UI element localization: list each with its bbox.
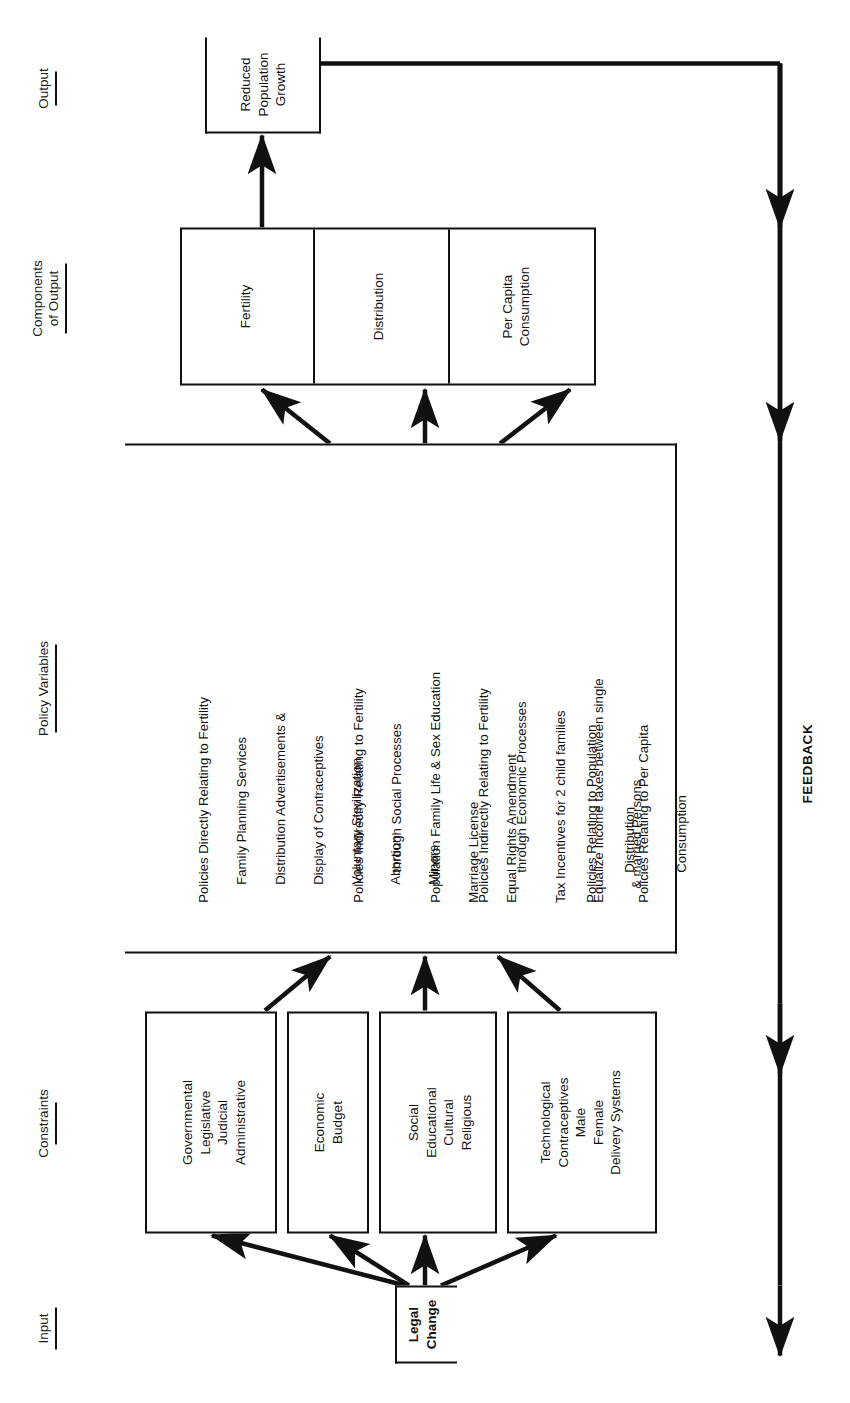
node-reduced-population-growth: Reduced Population Growth: [205, 37, 321, 133]
output-line: Reduced: [238, 57, 253, 111]
policy-line: Policies Relating to Population: [584, 724, 599, 902]
policy-line: Population Family Life & Sex Education: [428, 671, 443, 902]
constraint-line: Administrative: [233, 1080, 248, 1165]
section-label-input-text: Input: [36, 1313, 51, 1343]
constraint-line: Delivery Systems: [608, 1070, 623, 1174]
component-line: Fertility: [238, 284, 253, 328]
constraint-line: Educational: [424, 1087, 439, 1158]
component-per-capita-label: Per Capita Consumption: [500, 229, 534, 383]
components-of-output-box: Fertility Distribution Per Capita Consum…: [180, 227, 596, 385]
policy-line: Distribution Advertisements &: [273, 712, 288, 902]
section-label-output: Output: [36, 43, 57, 133]
constraint-box-social: Social Educational Cultural Religious: [379, 1011, 497, 1233]
legal-change-line2: Change: [424, 1299, 439, 1349]
constraint-line: Social: [406, 1104, 421, 1141]
output-line: Population: [256, 52, 271, 116]
arrows-input-to-constraints: [212, 1235, 556, 1285]
policy-line: Display of Contraceptives: [311, 735, 326, 903]
constraint-line: Technological: [538, 1081, 553, 1163]
section-label-output-text: Output: [36, 68, 51, 109]
policy-line: through Economic Processes: [514, 701, 529, 903]
output-line: Growth: [273, 62, 288, 106]
section-label-policy-variables-text: Policy Variables: [36, 640, 51, 735]
policy-group-per-capita-consumption: Policies Relating to Per Capita Consumpt…: [615, 724, 711, 917]
policy-line: Policies Directly Relating to Fertility: [196, 696, 211, 902]
section-underline: [55, 1102, 57, 1144]
policy-line: Consumption: [674, 795, 689, 903]
constraint-line: Contraceptives: [556, 1077, 571, 1167]
constraint-line: Judicial: [215, 1099, 230, 1144]
policy-line: Policies Relating to Per Capita: [636, 724, 651, 902]
node-legal-change: Legal Change: [395, 1285, 457, 1363]
output-node-label: Reduced Population Growth: [237, 37, 290, 131]
component-line: Consumption: [517, 266, 532, 346]
policy-line: through Social Processes: [389, 723, 404, 903]
policy-line: Family Planning Services: [234, 736, 249, 902]
constraint-line: Female: [591, 1100, 606, 1145]
constraint-line: Religious: [459, 1094, 474, 1150]
constraint-box-technological: Technological Contraceptives Male Female…: [507, 1011, 657, 1233]
section-label-components-of-output: Components of Output: [30, 233, 67, 363]
section-label-components-line2: of Output: [46, 270, 61, 326]
constraint-governmental-label: Governmental Legislative Judicial Admini…: [179, 1013, 249, 1231]
policy-line: Policies Indirectly Relating to Fertilit…: [476, 688, 491, 903]
component-distribution-label: Distribution: [371, 229, 388, 383]
constraint-box-governmental: Governmental Legislative Judicial Admini…: [145, 1011, 277, 1233]
component-cell-fertility: Fertility: [182, 229, 315, 383]
section-underline: [55, 1307, 57, 1349]
arrows-constraints-to-policy: [265, 956, 560, 1010]
constraint-line: Legislative: [198, 1090, 213, 1154]
constraint-box-economic: Economic Budget: [287, 1011, 369, 1233]
feedback-label: FEEDBACK: [800, 723, 815, 803]
constraint-line: Male: [573, 1107, 588, 1136]
legal-change-line1: Legal: [406, 1306, 421, 1341]
component-line: Distribution: [371, 272, 386, 340]
constraint-line: Economic: [312, 1092, 327, 1151]
constraint-economic-label: Economic Budget: [311, 1013, 346, 1231]
constraint-line: Cultural: [441, 1099, 456, 1146]
diagram-canvas: Input Constraints Policy Variables Compo…: [0, 0, 850, 1403]
section-label-policy-variables: Policy Variables: [36, 618, 57, 758]
constraint-technological-label: Technological Contraceptives Male Female…: [537, 1013, 625, 1231]
constraint-social-label: Social Educational Cultural Religious: [405, 1013, 475, 1231]
node-legal-change-label: Legal Change: [405, 1287, 440, 1361]
constraint-line: Governmental: [180, 1080, 195, 1165]
section-label-components-line1: Components: [30, 260, 45, 337]
component-fertility-label: Fertility: [238, 229, 255, 383]
component-cell-distribution: Distribution: [315, 229, 450, 383]
policy-line: Policies Indirectly Relating to Fertilit…: [351, 688, 366, 903]
section-label-input: Input: [36, 1283, 57, 1373]
section-underline: [55, 644, 57, 732]
section-underline: [55, 71, 57, 105]
constraint-line: Budget: [330, 1101, 345, 1144]
section-underline: [65, 263, 67, 333]
arrows-policy-to-components: [262, 389, 570, 443]
component-cell-per-capita-consumption: Per Capita Consumption: [450, 229, 595, 383]
section-label-constraints: Constraints: [36, 1068, 57, 1178]
component-line: Per Capita: [500, 274, 515, 338]
section-label-constraints-text: Constraints: [36, 1089, 51, 1157]
